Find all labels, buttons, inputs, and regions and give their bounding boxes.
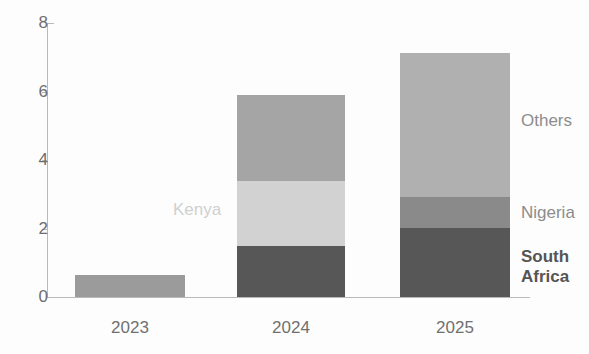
series-label-nigeria: Nigeria [521,203,575,223]
y-tick-label: 6 [14,82,48,102]
bar-2024[interactable] [237,95,345,297]
series-label-others: Others [521,111,572,131]
plot-area: 8 6 4 2 0 [0,0,589,354]
series-label-south-africa-line1: South [521,247,569,267]
stacked-bar-chart: 8 6 4 2 0 [0,0,589,354]
bar-segment-others-2025[interactable] [400,53,510,197]
y-tick-label: 4 [14,150,48,170]
bar-segment-south-africa-2025[interactable] [400,228,510,297]
bar-segment-others-2024[interactable] [237,95,345,181]
bar-segment-nigeria-2025[interactable] [400,197,510,228]
bar-2025[interactable] [400,53,510,297]
y-tick-label: 0 [14,287,48,307]
bar-2023[interactable] [75,275,185,297]
series-label-south-africa-line2: Africa [521,267,569,287]
bar-segment-south-africa-2024[interactable] [237,246,345,297]
x-tick-label-2024: 2024 [237,318,345,338]
y-axis-top-cap [47,23,54,24]
bar-segment-kenya-2024[interactable] [237,181,345,246]
bar-segment-others-2023[interactable] [75,275,185,297]
x-tick-label-2023: 2023 [75,318,185,338]
y-tick-label: 2 [14,219,48,239]
series-label-kenya: Kenya [173,200,221,220]
y-tick-label: 8 [14,13,48,33]
x-axis-spine [47,297,530,298]
x-tick-label-2025: 2025 [400,318,510,338]
